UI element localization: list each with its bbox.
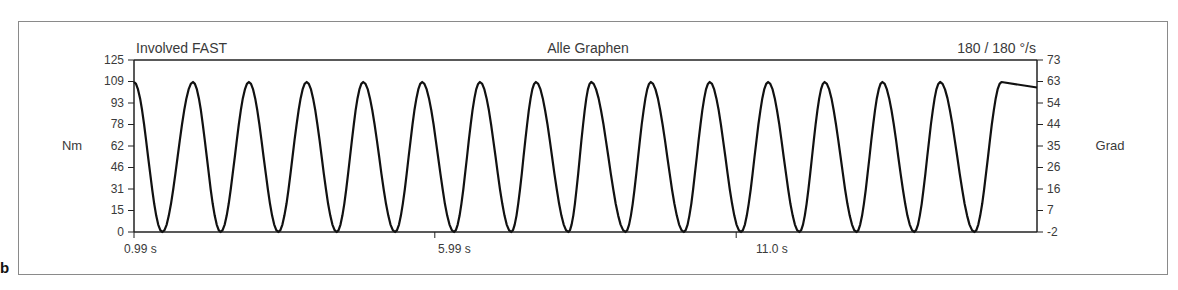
right-tick-label: 26 bbox=[1047, 160, 1061, 174]
right-tick-label: 35 bbox=[1047, 139, 1061, 153]
right-tick-labels: 73 63 54 44 35 26 16 7 -2 bbox=[1047, 53, 1061, 239]
chart-subtitle-right: 180 / 180 °/s bbox=[957, 40, 1036, 56]
torque-curve bbox=[134, 82, 1037, 232]
right-tick-label: 63 bbox=[1047, 74, 1061, 88]
chart-title: Alle Graphen bbox=[547, 40, 629, 56]
left-axis-label: Nm bbox=[62, 138, 82, 153]
right-tick-label: 44 bbox=[1047, 117, 1061, 131]
x-axis-ticks bbox=[134, 232, 736, 238]
left-tick-label: 46 bbox=[111, 160, 125, 174]
x-tick-label: 5.99 s bbox=[438, 242, 471, 256]
right-tick-label: 73 bbox=[1047, 53, 1061, 67]
x-tick-label: 11.0 s bbox=[756, 242, 788, 256]
right-axis-label: Grad bbox=[1096, 138, 1125, 153]
left-axis-ticks bbox=[128, 60, 134, 232]
right-axis-ticks bbox=[1037, 60, 1043, 232]
chart-svg: Involved FAST Alle Graphen 180 / 180 °/s… bbox=[0, 0, 1178, 290]
left-tick-label: 62 bbox=[111, 139, 125, 153]
x-tick-label: 0.99 s bbox=[124, 242, 157, 256]
left-tick-label: 78 bbox=[111, 117, 125, 131]
chart-subtitle-left: Involved FAST bbox=[136, 40, 227, 56]
left-tick-label: 0 bbox=[117, 225, 124, 239]
left-tick-labels: 125 109 93 78 62 46 31 15 0 bbox=[104, 53, 124, 239]
left-tick-label: 93 bbox=[111, 96, 125, 110]
left-tick-label: 109 bbox=[104, 74, 124, 88]
left-tick-label: 15 bbox=[111, 203, 125, 217]
left-tick-label: 31 bbox=[111, 182, 125, 196]
right-tick-label: 54 bbox=[1047, 96, 1061, 110]
right-tick-label: -2 bbox=[1047, 225, 1058, 239]
x-tick-labels: 0.99 s 5.99 s 11.0 s bbox=[124, 242, 788, 256]
left-tick-label: 125 bbox=[104, 53, 124, 67]
right-tick-label: 16 bbox=[1047, 182, 1061, 196]
right-tick-label: 7 bbox=[1047, 203, 1054, 217]
